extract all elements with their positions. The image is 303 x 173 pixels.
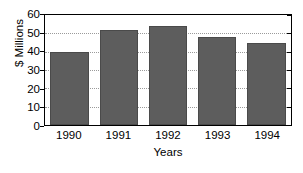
bar-slot: [94, 15, 143, 125]
y-axis-tick-labels: 0102030405060: [12, 14, 40, 126]
y-axis-tick-label: 20: [12, 83, 40, 95]
bar[interactable]: [247, 43, 285, 126]
bar[interactable]: [149, 26, 187, 125]
y-axis-tick-label: 30: [12, 64, 40, 76]
bar-slot: [143, 15, 192, 125]
plot-area: [44, 14, 292, 126]
bar[interactable]: [198, 37, 236, 125]
y-axis-inner-tick: [287, 125, 291, 126]
bar-slot: [193, 15, 242, 125]
y-axis-tick-label: 40: [12, 45, 40, 57]
x-axis-tick-labels: 19901991199219931994: [44, 129, 292, 141]
x-axis-title: Years: [44, 146, 292, 158]
bar-slot: [242, 15, 291, 125]
y-axis-tick-label: 10: [12, 101, 40, 113]
x-axis-tick-label: 1990: [44, 129, 94, 141]
x-axis-tick-label: 1993: [193, 129, 243, 141]
x-axis-tick-label: 1991: [94, 129, 144, 141]
x-axis-tick-label: 1994: [242, 129, 292, 141]
bar-chart-figure: $ Millions 0102030405060 199019911992199…: [0, 0, 303, 173]
bar[interactable]: [50, 52, 88, 125]
y-axis-tick-label: 0: [12, 120, 40, 132]
bar-slot: [45, 15, 94, 125]
y-axis-tick-label: 60: [12, 8, 40, 20]
bar[interactable]: [100, 30, 138, 125]
y-axis-tick-mark: [40, 126, 44, 127]
y-axis-tick-label: 50: [12, 27, 40, 39]
bar-series: [45, 15, 291, 125]
x-axis-tick-label: 1992: [143, 129, 193, 141]
